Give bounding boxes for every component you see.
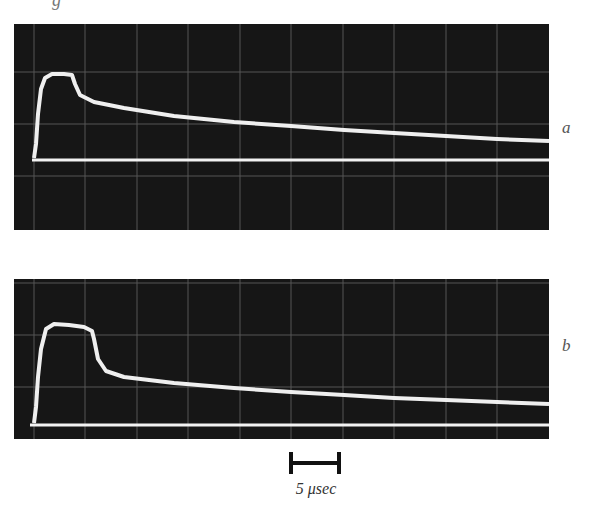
scale-bar-line — [289, 461, 341, 465]
oscilloscope-panel-b — [14, 279, 549, 439]
trace-plot-b — [14, 279, 549, 439]
scale-bar-right-cap — [337, 452, 341, 474]
oscilloscope-panel-a — [14, 24, 549, 230]
time-scale-label: 5 μsec — [280, 480, 352, 498]
time-scale-bar — [289, 452, 341, 474]
trace-plot-a — [14, 24, 549, 230]
figure-top-fragment: g — [52, 0, 61, 11]
panel-label-a: a — [562, 118, 571, 138]
panel-label-b: b — [562, 336, 571, 356]
